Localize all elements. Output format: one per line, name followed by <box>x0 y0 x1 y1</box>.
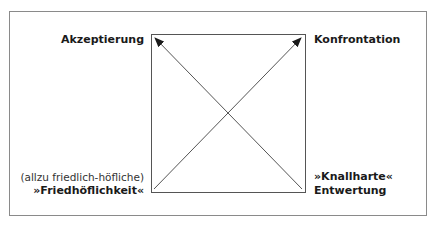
label-entwertung: Entwertung <box>314 184 393 198</box>
label-friedhoeflichkeit: »Friedhöflichkeit« <box>20 184 144 198</box>
label-friedhoeflichkeit-group: (allzu friedlich-höfliche) »Friedhöflich… <box>20 170 144 198</box>
label-friedhoeflichkeit-sub: (allzu friedlich-höfliche) <box>20 170 144 184</box>
label-akzeptierung: Akzeptierung <box>61 33 144 47</box>
arrow-to-konfrontation <box>154 38 301 189</box>
label-knallharte-entwertung-group: »Knallharte« Entwertung <box>314 170 393 198</box>
label-knallharte: »Knallharte« <box>314 170 393 184</box>
label-konfrontation: Konfrontation <box>314 33 400 47</box>
arrow-to-akzeptierung <box>155 38 302 189</box>
